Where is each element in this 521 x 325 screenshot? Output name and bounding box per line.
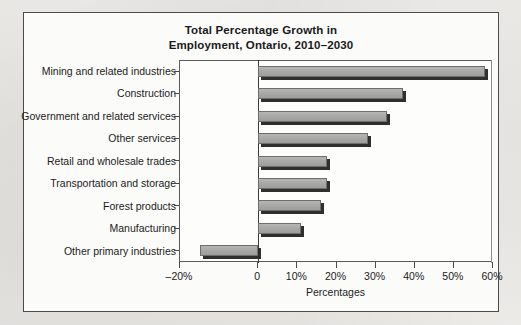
x-axis-tick <box>453 262 454 268</box>
y-axis-tick <box>174 160 179 161</box>
bar <box>258 66 485 77</box>
x-axis-tick-label: 50% <box>442 270 463 282</box>
chart-title-line-1: Total Percentage Growth in <box>24 23 498 38</box>
x-axis-tick <box>492 262 493 268</box>
category-row: Government and related services <box>24 105 185 127</box>
bar <box>258 178 326 189</box>
x-axis-tick <box>179 262 180 268</box>
x-axis-tick <box>257 262 258 268</box>
x-axis-title: Percentages <box>179 286 492 298</box>
y-axis-tick <box>174 138 179 139</box>
x-axis-tick-label: –20% <box>166 270 193 282</box>
bar <box>258 111 387 122</box>
bar <box>200 245 259 256</box>
plot-right-border <box>491 60 492 263</box>
category-row: Forest products <box>24 195 185 217</box>
chart-title-line-2: Employment, Ontario, 2010–2030 <box>24 38 498 53</box>
category-label: Mining and related industries <box>42 60 176 82</box>
y-axis-tick <box>174 93 179 94</box>
bar <box>258 133 368 144</box>
bar <box>258 88 403 99</box>
bar <box>258 223 301 234</box>
category-label: Retail and wholesale trades <box>47 150 176 172</box>
y-axis-tick <box>174 228 179 229</box>
y-axis-tick <box>174 116 179 117</box>
y-axis-tick <box>174 71 179 72</box>
x-axis-tick <box>336 262 337 268</box>
x-axis: –20%010%20%30%40%50%60% Percentages <box>179 262 492 302</box>
y-axis-tick <box>174 205 179 206</box>
x-axis-tick-label: 30% <box>364 270 385 282</box>
category-label: Transportation and storage <box>50 172 176 194</box>
category-label: Government and related services <box>21 105 176 127</box>
category-row: Construction <box>24 82 185 104</box>
y-axis-tick <box>174 250 179 251</box>
chart-title: Total Percentage Growth in Employment, O… <box>24 23 498 53</box>
x-axis-tick-label: 0 <box>254 270 260 282</box>
category-label: Other primary industries <box>64 240 176 262</box>
bar <box>258 200 321 211</box>
category-row: Manufacturing <box>24 217 185 239</box>
category-label: Forest products <box>103 195 176 217</box>
x-axis-tick-label: 10% <box>286 270 307 282</box>
chart-figure: Total Percentage Growth in Employment, O… <box>23 12 499 312</box>
category-label: Construction <box>117 82 176 104</box>
plot-area <box>179 60 492 262</box>
category-row: Retail and wholesale trades <box>24 150 185 172</box>
x-axis-tick <box>414 262 415 268</box>
x-axis-tick <box>375 262 376 268</box>
category-row: Transportation and storage <box>24 172 185 194</box>
bar <box>258 156 326 167</box>
category-label: Other services <box>108 127 176 149</box>
category-label: Manufacturing <box>109 217 176 239</box>
x-axis-tick-label: 60% <box>481 270 502 282</box>
category-row: Other services <box>24 127 185 149</box>
x-axis-tick-label: 20% <box>325 270 346 282</box>
y-axis-tick <box>174 183 179 184</box>
x-axis-tick <box>296 262 297 268</box>
x-axis-tick-label: 40% <box>403 270 424 282</box>
category-row: Other primary industries <box>24 240 185 262</box>
category-row: Mining and related industries <box>24 60 185 82</box>
